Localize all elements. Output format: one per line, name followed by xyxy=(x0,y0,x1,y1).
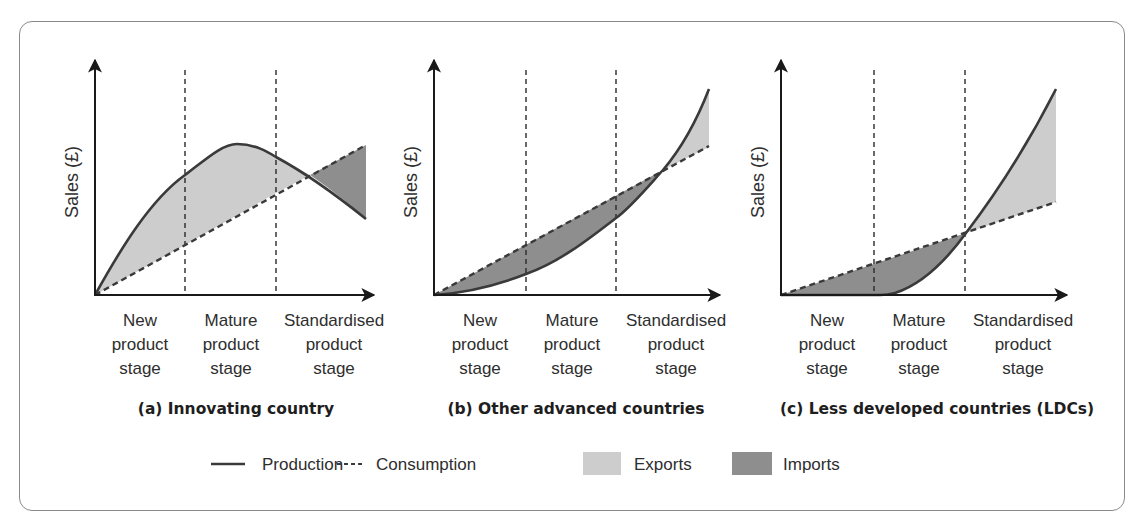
panel-b-other-advanced-countries: Sales (£) New product stage Mature produ… xyxy=(401,60,726,418)
stage-label: product xyxy=(995,335,1052,354)
stage-label: product xyxy=(112,335,169,354)
stage-labels: New product stage Mature product stage S… xyxy=(799,311,1073,378)
y-axis-label: Sales (£) xyxy=(62,146,82,218)
y-axis-label: Sales (£) xyxy=(401,146,421,218)
stage-label: product xyxy=(648,335,705,354)
panel-title: (c) Less developed countries (LDCs) xyxy=(780,400,1094,418)
panel-c-less-developed-countries: Sales (£) New product stage Mature produ… xyxy=(748,60,1094,418)
stage-label: product xyxy=(306,335,363,354)
stage-label: Standardised xyxy=(626,311,726,330)
stage-label: stage xyxy=(313,359,355,378)
figure-canvas: Sales (£) New product stage Mature produ… xyxy=(0,0,1135,529)
exports-region xyxy=(966,89,1056,233)
stage-label: stage xyxy=(898,359,940,378)
stage-label: product xyxy=(452,335,509,354)
legend-label: Production xyxy=(262,455,343,474)
stage-label: stage xyxy=(806,359,848,378)
legend-label: Exports xyxy=(634,455,692,474)
stage-label: stage xyxy=(210,359,252,378)
stage-label: New xyxy=(810,311,845,330)
stage-label: product xyxy=(203,335,260,354)
panel-title: (b) Other advanced countries xyxy=(447,400,704,418)
legend: Production Consumption Exports Imports xyxy=(211,452,840,475)
stage-label: stage xyxy=(1002,359,1044,378)
stage-label: Mature xyxy=(546,311,599,330)
stage-label: product xyxy=(544,335,601,354)
stage-label: Standardised xyxy=(973,311,1073,330)
stage-label: product xyxy=(799,335,856,354)
stage-label: stage xyxy=(459,359,501,378)
stage-label: stage xyxy=(655,359,697,378)
exports-region xyxy=(663,89,709,170)
exports-swatch-icon xyxy=(583,452,621,475)
legend-label: Consumption xyxy=(376,455,476,474)
y-axis-label: Sales (£) xyxy=(748,146,768,218)
stage-label: stage xyxy=(551,359,593,378)
production-line xyxy=(434,89,709,295)
stage-label: Mature xyxy=(893,311,946,330)
stage-label: New xyxy=(463,311,498,330)
legend-item-consumption: Consumption xyxy=(337,455,476,474)
stage-label: Mature xyxy=(205,311,258,330)
exports-region xyxy=(95,144,310,295)
legend-label: Imports xyxy=(783,455,840,474)
stage-label: New xyxy=(123,311,158,330)
stage-label: product xyxy=(891,335,948,354)
stage-labels: New product stage Mature product stage S… xyxy=(112,311,384,378)
imports-swatch-icon xyxy=(732,452,772,475)
panel-title: (a) Innovating country xyxy=(138,400,334,418)
stage-labels: New product stage Mature product stage S… xyxy=(452,311,726,378)
panel-a-innovating-country: Sales (£) New product stage Mature produ… xyxy=(62,60,384,418)
legend-item-exports: Exports xyxy=(583,452,692,475)
legend-item-production: Production xyxy=(211,455,343,474)
stage-label: Standardised xyxy=(284,311,384,330)
legend-item-imports: Imports xyxy=(732,452,840,475)
stage-label: stage xyxy=(119,359,161,378)
